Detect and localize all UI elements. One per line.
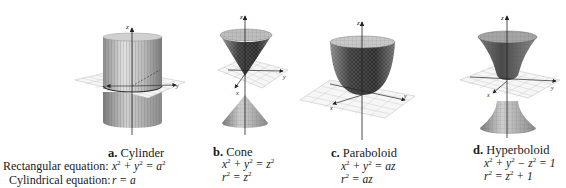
svg-text:y: y	[282, 74, 286, 80]
rect-eq-cone: x2 + y2 = z2	[222, 158, 274, 170]
hyperboloid-graph: z x y	[460, 14, 560, 138]
caption-letter: c.	[331, 146, 340, 160]
svg-text:y: y	[175, 83, 179, 89]
caption-cylinder: a. Cylinder	[108, 147, 164, 159]
cylinder-graph: z x y	[75, 23, 185, 135]
caption-name: Cylinder	[121, 146, 165, 160]
caption-cone: b. Cone	[213, 146, 253, 158]
cyl-eq-hyperboloid: r2 = z2 + 1	[484, 170, 533, 182]
svg-text:x: x	[486, 92, 490, 98]
svg-text:x: x	[235, 90, 239, 96]
cone-graph: z x y	[218, 13, 288, 135]
svg-text:z: z	[125, 23, 129, 31]
caption-name: Paraboloid	[343, 146, 397, 160]
svg-text:z: z	[356, 19, 360, 27]
rect-eq-hyperboloid: x2 + y2 − z2 = 1	[484, 157, 556, 169]
rect-eq-paraboloid: x2 + y2 = az	[341, 160, 395, 172]
caption-name: Hyperboloid	[486, 143, 549, 157]
cyl-eq-cylinder: r = a	[112, 174, 136, 186]
paraboloid-graph: z x y	[300, 19, 415, 140]
svg-text:y: y	[550, 85, 554, 91]
caption-letter: b.	[213, 145, 223, 159]
quadric-surfaces-figure: z x y z x y	[0, 0, 566, 145]
cyl-eq-cone: r2 = z2	[222, 171, 251, 183]
rect-eq-cylinder: x2 + y2 = a2	[112, 160, 166, 172]
svg-text:z: z	[500, 14, 504, 22]
caption-letter: a.	[108, 146, 117, 160]
cylindrical-equation-row-label: Cylindrical equation:	[9, 174, 111, 186]
cyl-eq-paraboloid: r2 = az	[341, 173, 373, 185]
caption-paraboloid: c. Paraboloid	[331, 147, 397, 159]
caption-letter: d.	[473, 143, 483, 157]
svg-text:x: x	[102, 84, 106, 90]
caption-hyperboloid: d. Hyperboloid	[473, 144, 549, 156]
svg-text:y: y	[403, 93, 407, 99]
svg-text:z: z	[239, 13, 243, 21]
svg-text:x: x	[329, 105, 333, 111]
rectangular-equation-row-label: Rectangular equation:	[3, 160, 109, 172]
